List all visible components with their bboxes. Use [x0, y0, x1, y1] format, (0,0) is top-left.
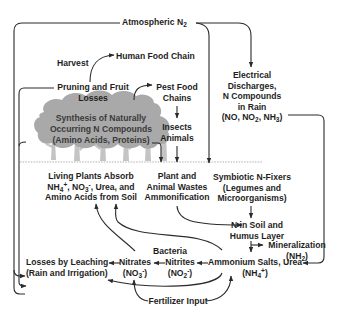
living-plants-absorb-label: Living Plants Absorb NH4+, NO3-, Urea, a…: [41, 171, 141, 203]
synthesis-n-compounds-label: Synthesis of Naturally Occurring N Compo…: [38, 113, 164, 145]
plant-animal-wastes-label: Plant and Animal Wastes Ammonification: [144, 171, 210, 203]
nitrites-label: Nitrites (NO2-): [162, 257, 198, 278]
harvest-label: Harvest: [57, 58, 89, 69]
atmospheric-n2-label: Atmospheric N2: [122, 17, 187, 28]
n-in-soil-humus-label: N in Soil and Humus Layer: [222, 220, 292, 241]
electrical-discharges-label: Electrical Discharges, N Compounds in Ra…: [214, 70, 290, 123]
bacteria-label: Bacteria: [150, 246, 190, 257]
fertilizer-input-label: Fertilizer Input: [147, 296, 209, 307]
human-food-chain-label: Human Food Chain: [116, 51, 195, 62]
symbiotic-n-fixers-label: Symbiotic N-Fixers (Legumes and Microorg…: [212, 172, 292, 204]
nitrates-label: Nitrates (NO3-): [115, 257, 155, 278]
losses-by-leaching-label: Losses by Leaching (Rain and Irrigation): [26, 257, 108, 278]
pruning-fruit-losses-label: Pruning and Fruit Losses: [50, 82, 136, 103]
insects-animals-label: Insects Animals: [155, 122, 199, 143]
nitrogen-cycle-diagram: Atmospheric N2 Harvest Human Food Chain …: [0, 0, 341, 317]
pest-food-chains-label: Pest Food Chains: [152, 82, 202, 103]
ammonium-salts-urea-label: Ammonium Salts, Urea (NH4+): [206, 257, 304, 278]
